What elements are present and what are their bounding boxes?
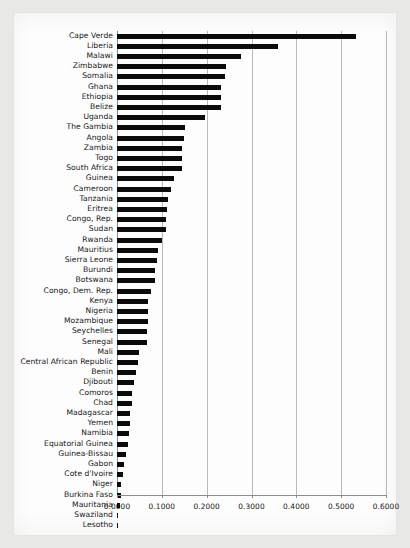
- category-label: South Africa: [66, 163, 113, 173]
- bar-row: Kenya: [117, 296, 386, 306]
- category-label: Congo, Rep.: [67, 214, 113, 224]
- category-label: Somalia: [82, 71, 113, 81]
- bar: [117, 136, 184, 141]
- category-label: Sierra Leone: [65, 255, 113, 265]
- category-label: Malawi: [86, 51, 113, 61]
- x-tick-mark: [386, 495, 387, 498]
- bar-row: The Gambia: [117, 123, 386, 133]
- category-label: Guinea-Bissau: [58, 449, 113, 459]
- bar-row: Botswana: [117, 276, 386, 286]
- category-label: Lesotho: [83, 520, 113, 530]
- x-tick-mark: [162, 495, 163, 498]
- x-tick-label: 0.1000: [137, 502, 187, 511]
- bar-row: Liberia: [117, 41, 386, 51]
- bar: [117, 319, 148, 324]
- bar-row: Ethiopia: [117, 92, 386, 102]
- bar-row: Congo, Rep.: [117, 215, 386, 225]
- bar-row: Sudan: [117, 225, 386, 235]
- category-label: Zambia: [84, 143, 113, 153]
- category-label: Seychelles: [72, 326, 113, 336]
- category-label: Chad: [93, 398, 113, 408]
- x-tick-label: 0.6000: [361, 502, 410, 511]
- bar: [117, 289, 151, 294]
- bar-row: Cote d'Ivoire: [117, 470, 386, 480]
- scanned-page-frame: Cape VerdeLiberiaMalawiZimbabweSomaliaGh…: [0, 0, 410, 548]
- bar: [117, 146, 182, 151]
- category-label: Sudan: [89, 224, 113, 234]
- gridline-0.6000: [386, 31, 387, 495]
- category-label: Belize: [90, 102, 113, 112]
- bar-row: Seychelles: [117, 327, 386, 337]
- x-tick-mark: [252, 495, 253, 498]
- bar: [117, 85, 221, 90]
- category-label: Ghana: [88, 82, 113, 92]
- category-label: Ethiopia: [82, 92, 113, 102]
- bar-row: Yemen: [117, 419, 386, 429]
- bar: [117, 217, 166, 222]
- bar-row: Zimbabwe: [117, 62, 386, 72]
- category-label: Cape Verde: [69, 31, 113, 41]
- category-label: Togo: [95, 153, 113, 163]
- bar-row: Namibia: [117, 429, 386, 439]
- bar: [117, 442, 128, 447]
- bar-row: Mauritius: [117, 245, 386, 255]
- category-label: Zimbabwe: [73, 61, 113, 71]
- category-label: Namibia: [81, 428, 113, 438]
- category-label: Cameroon: [74, 184, 114, 194]
- bar-row: Chad: [117, 398, 386, 408]
- x-tick-label: 0.3000: [227, 502, 277, 511]
- bar: [117, 105, 221, 110]
- x-tick-label: 0.2000: [182, 502, 232, 511]
- bar: [117, 74, 225, 79]
- category-label: Nigeria: [85, 306, 113, 316]
- category-label: Mali: [97, 347, 113, 357]
- category-label: Liberia: [87, 41, 113, 51]
- bar: [117, 227, 166, 232]
- bar-row: Djibouti: [117, 378, 386, 388]
- category-label: Angola: [86, 133, 113, 143]
- bar: [117, 125, 185, 130]
- category-label: Uganda: [83, 112, 113, 122]
- x-tick-label: 0.4000: [271, 502, 321, 511]
- bar: [117, 248, 158, 253]
- bar: [117, 278, 155, 283]
- category-label: Madagascar: [66, 408, 113, 418]
- category-label: Guinea: [86, 173, 113, 183]
- bar: [117, 329, 147, 334]
- bar: [117, 350, 139, 355]
- bar-row: Togo: [117, 153, 386, 163]
- category-label: Swaziland: [74, 510, 113, 520]
- bar: [117, 187, 171, 192]
- bar: [117, 156, 182, 161]
- bar-chart: Cape VerdeLiberiaMalawiZimbabweSomaliaGh…: [14, 13, 396, 535]
- bar: [117, 462, 124, 467]
- bar-row: Mali: [117, 347, 386, 357]
- bar: [117, 391, 132, 396]
- category-label: The Gambia: [66, 122, 113, 132]
- bar-row: Swaziland: [117, 510, 386, 520]
- bar: [117, 176, 174, 181]
- bar: [117, 207, 167, 212]
- category-label: Eritrea: [87, 204, 113, 214]
- bar-row: Mozambique: [117, 317, 386, 327]
- bar: [117, 513, 118, 518]
- bar: [117, 95, 221, 100]
- bar-row: Guinea-Bissau: [117, 449, 386, 459]
- x-tick-mark: [117, 495, 118, 498]
- bar-row: Cameroon: [117, 184, 386, 194]
- bar: [117, 115, 205, 120]
- bar: [117, 411, 130, 416]
- category-label: Central African Republic: [20, 357, 113, 367]
- bar-row: Congo, Dem. Rep.: [117, 286, 386, 296]
- bar-row: Belize: [117, 102, 386, 112]
- category-label: Senegal: [82, 337, 113, 347]
- bar: [117, 166, 182, 171]
- x-tick-label: 0.5000: [316, 502, 366, 511]
- bar: [117, 258, 157, 263]
- bar: [117, 340, 147, 345]
- category-label: Tanzania: [80, 194, 113, 204]
- bar-row: Malawi: [117, 51, 386, 61]
- bar: [117, 431, 129, 436]
- bar: [117, 197, 168, 202]
- bar: [117, 401, 132, 406]
